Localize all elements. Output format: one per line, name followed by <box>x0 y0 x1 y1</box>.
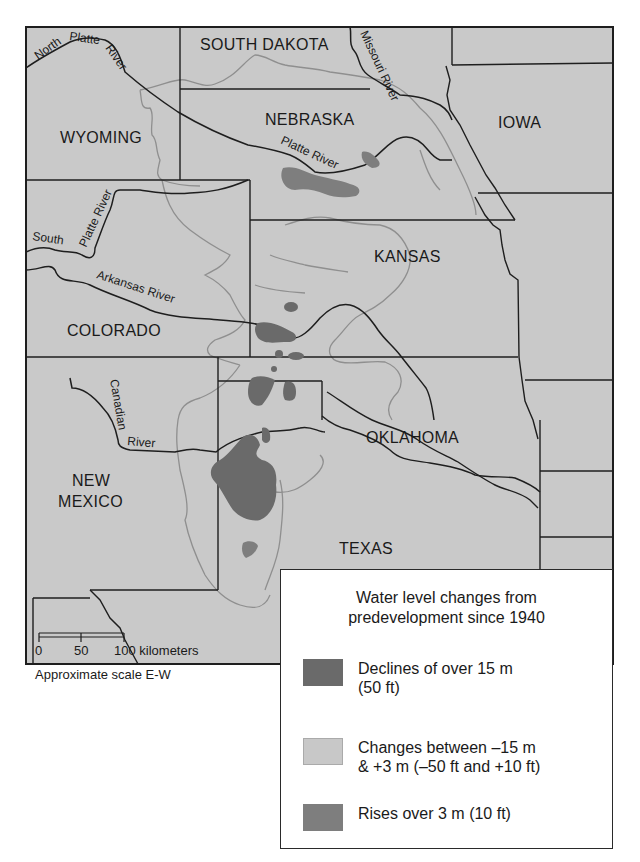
scale-caption: Approximate scale E-W <box>35 667 171 682</box>
scale-tick-0: 0 <box>35 643 42 658</box>
state-label-iowa: IOWA <box>498 114 541 131</box>
state-label-colorado: COLORADO <box>67 322 161 339</box>
rise-swatch <box>303 804 343 831</box>
legend-title: Water level changes from predevelopment … <box>281 588 612 628</box>
state-label-south-dakota: SOUTH DAKOTA <box>200 36 329 53</box>
legend-item-declines: Declines of over 15 m (50 ft) <box>303 659 513 697</box>
river-label-canadian-2: River <box>127 434 156 450</box>
state-label-nebraska: NEBRASKA <box>265 111 355 128</box>
scale-tick-100: 100 kilometers <box>114 643 199 658</box>
state-label-new-mexico-2: MEXICO <box>58 493 123 510</box>
state-label-oklahoma: OKLAHOMA <box>366 429 459 446</box>
legend: Water level changes from predevelopment … <box>280 569 613 849</box>
state-label-wyoming: WYOMING <box>60 129 142 146</box>
legend-item-changes: Changes between –15 m & +3 m (–50 ft and… <box>303 738 540 776</box>
change-swatch <box>303 738 343 765</box>
legend-item-rises: Rises over 3 m (10 ft) <box>303 804 511 831</box>
decline-swatch <box>303 659 343 686</box>
state-label-texas: TEXAS <box>339 540 393 557</box>
scale-tick-50: 50 <box>74 643 88 658</box>
state-label-kansas: KANSAS <box>374 248 441 265</box>
state-label-new-mexico-1: NEW <box>72 472 111 489</box>
